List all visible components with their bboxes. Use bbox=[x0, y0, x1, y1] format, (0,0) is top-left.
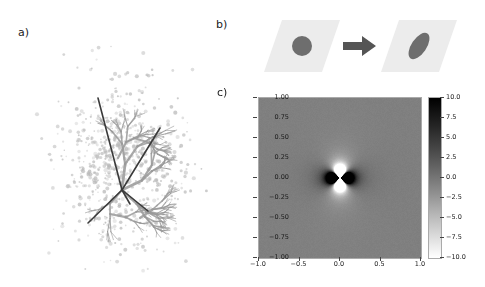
panel-c-heatmap: 1.000.750.500.250.00−0.25−0.50−0.75−1.00… bbox=[232, 88, 482, 283]
y-tick-mark bbox=[253, 157, 257, 158]
colorbar-tick-mark bbox=[440, 197, 444, 198]
y-tick-mark bbox=[253, 137, 257, 138]
x-tick-mark bbox=[299, 257, 300, 261]
y-tick-label: −0.50 bbox=[269, 214, 289, 221]
colorbar-gradient bbox=[428, 97, 442, 259]
colorbar-tick-mark bbox=[440, 217, 444, 218]
colorbar-tick-label: −10.0 bbox=[446, 254, 466, 261]
x-tick-label: −1.0 bbox=[247, 261, 269, 268]
y-tick-label: −1.00 bbox=[269, 254, 289, 261]
y-tick-mark bbox=[253, 97, 257, 98]
y-tick-mark bbox=[253, 217, 257, 218]
colorbar-tick-label: −7.5 bbox=[446, 234, 462, 241]
y-tick-mark bbox=[253, 197, 257, 198]
y-tick-label: −0.75 bbox=[269, 234, 289, 241]
colorbar-tick-mark bbox=[440, 117, 444, 118]
panel-a-scatter-tree bbox=[10, 18, 210, 276]
y-tick-label: 0.75 bbox=[275, 114, 289, 121]
x-tick-label: 1.0 bbox=[409, 261, 431, 268]
panel-b-label: b) bbox=[216, 18, 227, 31]
colorbar-tick-label: −5.0 bbox=[446, 214, 462, 221]
colorbar-tick-label: 0.0 bbox=[446, 174, 456, 181]
colorbar-tick-label: 10.0 bbox=[446, 94, 460, 101]
y-tick-mark bbox=[253, 117, 257, 118]
colorbar-tick-label: 2.5 bbox=[446, 154, 456, 161]
x-tick-mark bbox=[339, 257, 340, 261]
figure-container: a) b) 1.000.750.500.250.00−0.25−0.50−0.7… bbox=[0, 0, 485, 287]
panel-b-shear-diagram bbox=[250, 10, 465, 82]
colorbar-tick-label: 5.0 bbox=[446, 134, 456, 141]
colorbar-tick-mark bbox=[440, 97, 444, 98]
colorbar-tick-label: 7.5 bbox=[446, 114, 456, 121]
circle-shape bbox=[292, 36, 312, 56]
colorbar-tick-mark bbox=[440, 237, 444, 238]
panel-c-label: c) bbox=[217, 86, 227, 99]
y-tick-label: −0.25 bbox=[269, 194, 289, 201]
y-tick-label: 0.00 bbox=[275, 174, 289, 181]
y-tick-label: 1.00 bbox=[275, 94, 289, 101]
scatter-points bbox=[35, 46, 210, 276]
x-tick-mark bbox=[258, 257, 259, 261]
panel-a-label: a) bbox=[18, 26, 29, 39]
shear-diagram-svg bbox=[250, 10, 465, 82]
x-tick-mark bbox=[380, 257, 381, 261]
colorbar-tick-mark bbox=[440, 157, 444, 158]
y-tick-mark bbox=[253, 177, 257, 178]
colorbar-tick-mark bbox=[440, 177, 444, 178]
x-tick-label: −0.5 bbox=[288, 261, 310, 268]
colorbar-tick-mark bbox=[440, 137, 444, 138]
y-tick-label: 0.50 bbox=[275, 134, 289, 141]
panel-a-plot bbox=[10, 18, 210, 276]
x-tick-label: 0.0 bbox=[328, 261, 350, 268]
y-tick-mark bbox=[253, 257, 257, 258]
colorbar-tick-label: −2.5 bbox=[446, 194, 462, 201]
y-tick-mark bbox=[253, 237, 257, 238]
y-tick-label: 0.25 bbox=[275, 154, 289, 161]
right-arrow-icon bbox=[343, 36, 376, 56]
colorbar-tick-mark bbox=[440, 257, 444, 258]
x-tick-label: 0.5 bbox=[369, 261, 391, 268]
x-tick-mark bbox=[420, 257, 421, 261]
